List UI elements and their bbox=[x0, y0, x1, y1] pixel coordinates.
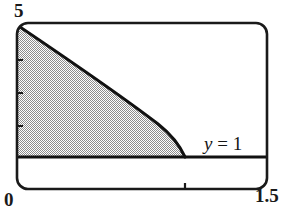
shaded-area bbox=[17, 25, 185, 157]
curve-label-value: 1 bbox=[233, 133, 243, 154]
plot-area bbox=[0, 0, 294, 215]
x-axis-max-label: 1.5 bbox=[255, 186, 279, 205]
plot-contents bbox=[16, 25, 268, 189]
y-axis-max-label: 5 bbox=[14, 1, 24, 20]
chart-figure: 5 0 1.5 y = 1 bbox=[0, 0, 294, 215]
curve-annotation-label: y = 1 bbox=[204, 134, 242, 153]
curve-label-operator: = bbox=[217, 133, 228, 154]
axis-origin-label: 0 bbox=[4, 190, 14, 209]
